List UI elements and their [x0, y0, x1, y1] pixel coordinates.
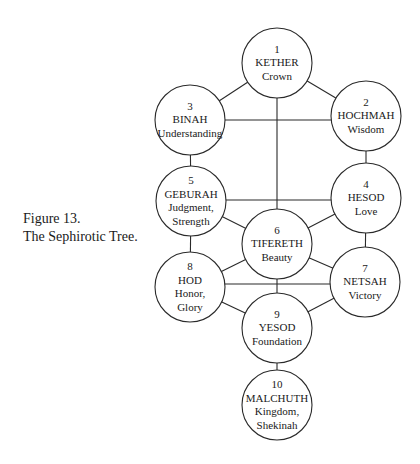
caption-figure-number: Figure 13. — [23, 210, 138, 228]
sephirah-label-binah: 3BINAHUnderstanding — [150, 100, 230, 141]
sephirah-number: 10 — [237, 378, 317, 392]
sephirah-number: 7 — [325, 262, 405, 276]
sephirah-meaning: Beauty — [237, 251, 317, 265]
sephirah-meaning: Victory — [325, 289, 405, 303]
sephirah-name: BINAH — [150, 113, 230, 127]
sephirah-name: MALCHUTH — [237, 392, 317, 406]
sephirah-number: 8 — [150, 260, 230, 274]
sephirah-number: 6 — [237, 224, 317, 238]
sephirah-number: 4 — [326, 178, 406, 192]
sephirah-name: HESOD — [326, 191, 406, 205]
sephirah-label-malchuth: 10MALCHUTHKingdom,Shekinah — [237, 378, 317, 432]
sephirah-label-netsah: 7NETSAHVictory — [325, 262, 405, 303]
sephirah-name: HOD — [150, 274, 230, 288]
sephirah-name: NETSAH — [325, 275, 405, 289]
sephirah-meaning: Understanding — [150, 127, 230, 141]
sephirah-number: 5 — [151, 174, 231, 188]
sephirah-label-tifereth: 6TIFERETHBeauty — [237, 224, 317, 265]
sephirah-meaning: Honor, — [150, 287, 230, 301]
sephirah-name: KETHER — [237, 56, 317, 70]
sephirah-meaning: Glory — [150, 301, 230, 315]
sephirah-number: 2 — [326, 96, 406, 110]
sephirah-label-geburah: 5GEBURAHJudgment,Strength — [151, 174, 231, 228]
sephirah-meaning: Shekinah — [237, 419, 317, 433]
sephirah-name: YESOD — [237, 321, 317, 335]
sephirah-meaning: Crown — [237, 70, 317, 84]
figure-caption: Figure 13. The Sephirotic Tree. — [23, 210, 138, 246]
sephirah-label-hochmah: 2HOCHMAHWisdom — [326, 96, 406, 137]
sephirah-meaning: Judgment, — [151, 201, 231, 215]
sephirah-number: 1 — [237, 43, 317, 57]
sephirah-meaning: Strength — [151, 215, 231, 229]
sephirah-name: HOCHMAH — [326, 109, 406, 123]
sephirah-name: GEBURAH — [151, 188, 231, 202]
sephirah-meaning: Love — [326, 205, 406, 219]
caption-title: The Sephirotic Tree. — [23, 228, 138, 246]
sephirah-label-hesod: 4HESODLove — [326, 178, 406, 219]
sephirah-meaning: Kingdom, — [237, 405, 317, 419]
sephirah-number: 3 — [150, 100, 230, 114]
sephirah-meaning: Foundation — [237, 335, 317, 349]
sephirah-number: 9 — [237, 308, 317, 322]
sephirah-name: TIFERETH — [237, 237, 317, 251]
sephirah-label-hod: 8HODHonor,Glory — [150, 260, 230, 314]
sephirah-label-kether: 1KETHERCrown — [237, 43, 317, 84]
sephirah-label-yesod: 9YESODFoundation — [237, 308, 317, 349]
sephirah-meaning: Wisdom — [326, 123, 406, 137]
